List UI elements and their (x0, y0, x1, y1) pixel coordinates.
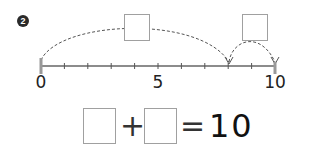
plus-sign: + (120, 111, 145, 141)
addend-2-box[interactable] (144, 108, 177, 144)
equation-result: 10 (209, 110, 254, 142)
tick-label-5: 5 (153, 72, 164, 92)
addend-1-box[interactable] (83, 108, 116, 144)
jump-answer-box-2[interactable] (242, 14, 268, 41)
jump-answer-box-1[interactable] (124, 14, 150, 41)
equals-sign: = (180, 111, 205, 141)
tick-label-10: 10 (264, 72, 286, 92)
tick-label-0: 0 (36, 72, 47, 92)
jump-arc-8-to-10 (229, 42, 275, 62)
